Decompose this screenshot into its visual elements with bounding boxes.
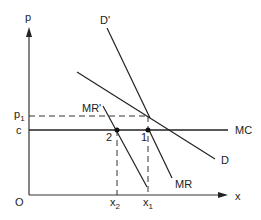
mr-prime-label: MR' [82,102,101,114]
origin-label: O [15,196,24,208]
mc-label: MC [235,124,252,136]
d-label: D [221,154,229,166]
d-curve [77,72,215,159]
point-2-label: 2 [106,131,112,143]
x1-label: x1 [143,196,154,211]
x-axis-label: x [235,190,241,202]
mr-curve [149,130,172,178]
mr-label: MR [175,178,192,190]
x-axis-arrow-icon [218,192,228,198]
point-2-marker [115,128,120,133]
y-axis-label: p [25,11,31,23]
x2-label: x2 [110,196,121,211]
mr-prime-curve [103,106,147,187]
d-prime-label: D' [100,14,110,26]
point-1-label: 1 [141,131,147,143]
c-label: c [16,124,22,136]
p1-label: p1 [14,108,25,123]
y-axis-arrow-icon [26,27,32,37]
monopoly-diagram: p x O p1 c x2 x1 D' D MR' MR MC 1 2 [0,0,261,220]
